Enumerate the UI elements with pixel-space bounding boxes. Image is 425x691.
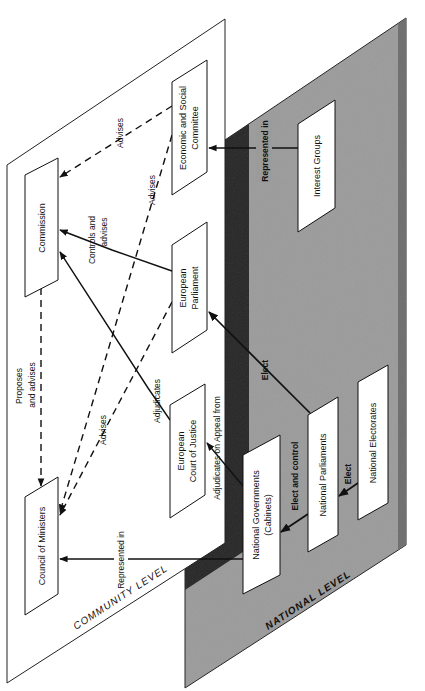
label-court-to-commission: Adjudicates xyxy=(152,379,162,423)
national-governments-label-line2: (Cabinets) xyxy=(263,494,273,536)
national-electorates-label: National Electorates xyxy=(368,402,378,483)
label-interest-to-esc: Represented in xyxy=(260,120,270,181)
parliament-label-line1: European xyxy=(178,268,188,307)
node-national-governments[interactable] xyxy=(243,435,280,594)
label-electorates-to-natparl: Elect xyxy=(343,464,353,484)
label-natgov-to-council: Represented in xyxy=(116,531,126,589)
label-commission-to-council-line1: Proposes xyxy=(14,368,24,404)
commission-label: Commission xyxy=(37,203,47,253)
eu-institutions-diagram: COMMUNITY LEVEL NATIONAL LEVEL xyxy=(0,0,425,691)
court-label-line2: Court of Justice xyxy=(188,420,198,483)
label-natgov-to-court: Adjudicates on Appeal from xyxy=(212,396,222,499)
council-label: Council of Ministers xyxy=(37,506,47,585)
label-esc-to-commission: Advises xyxy=(115,118,125,148)
label-commission-to-council-line2: and advises xyxy=(27,362,37,407)
national-governments-label-line1: National Governments xyxy=(251,470,261,560)
label-natparl-to-natgov: Elect and control xyxy=(290,442,300,511)
national-parliaments-label: National Parliaments xyxy=(318,433,328,517)
parliament-label-line2: Parliament xyxy=(190,266,200,310)
interest-groups-label: Interest Groups xyxy=(312,134,322,197)
label-parliament-to-commission-line1: Controls and xyxy=(87,216,97,264)
label-parliament-to-council: Advises xyxy=(98,415,108,445)
label-esc-to-council: Advises xyxy=(147,175,157,205)
esc-label-line2: Committee xyxy=(190,106,200,150)
label-parliament-to-commission-line2: advises xyxy=(99,218,109,247)
label-natparl-to-parliament: Elect xyxy=(260,360,270,380)
court-label-line1: European xyxy=(176,431,186,470)
esc-label-line1: Economic and Social xyxy=(178,86,188,170)
